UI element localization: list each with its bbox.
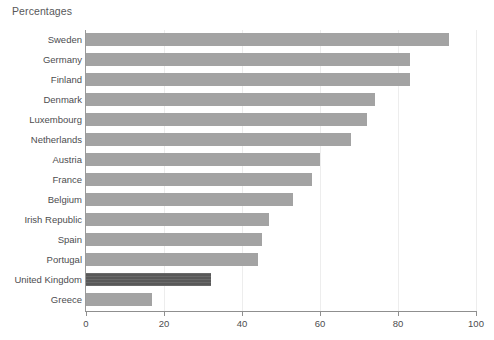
bar-germany <box>86 53 410 66</box>
category-label-germany: Germany <box>0 50 82 70</box>
x-tick-label-0: 0 <box>83 318 88 329</box>
bar-row <box>86 170 476 190</box>
bar-row <box>86 130 476 150</box>
category-label-austria: Austria <box>0 150 82 170</box>
category-label-irish-republic: Irish Republic <box>0 210 82 230</box>
x-tick-label-40: 40 <box>237 318 248 329</box>
bar-row <box>86 30 476 50</box>
gridline-100 <box>476 30 477 311</box>
bar-united-kingdom <box>86 273 211 286</box>
category-label-belgium: Belgium <box>0 190 82 210</box>
bar-row <box>86 110 476 130</box>
bar-portugal <box>86 253 258 266</box>
category-label-greece: Greece <box>0 290 82 310</box>
category-label-sweden: Sweden <box>0 30 82 50</box>
category-label-finland: Finland <box>0 70 82 90</box>
bar-france <box>86 173 312 186</box>
category-label-united-kingdom: United Kingdom <box>0 270 82 290</box>
category-label-denmark: Denmark <box>0 90 82 110</box>
category-axis-labels: SwedenGermanyFinlandDenmarkLuxembourgNet… <box>0 30 82 311</box>
x-tick-mark-60 <box>320 311 321 316</box>
bar-spain <box>86 233 262 246</box>
x-tick-label-100: 100 <box>468 318 484 329</box>
bar-row <box>86 270 476 290</box>
x-tick-mark-0 <box>86 311 87 316</box>
bar-chart: Percentages SwedenGermanyFinlandDenmarkL… <box>0 0 494 340</box>
bar-irish-republic <box>86 213 269 226</box>
bar-row <box>86 70 476 90</box>
bar-greece <box>86 293 152 306</box>
bar-series <box>86 30 476 311</box>
bar-row <box>86 190 476 210</box>
category-label-portugal: Portugal <box>0 250 82 270</box>
bar-row <box>86 250 476 270</box>
category-label-luxembourg: Luxembourg <box>0 110 82 130</box>
x-tick-label-20: 20 <box>159 318 170 329</box>
x-tick-label-60: 60 <box>315 318 326 329</box>
x-tick-mark-20 <box>164 311 165 316</box>
bar-sweden <box>86 33 449 46</box>
y-axis-line <box>85 30 86 311</box>
chart-title: Percentages <box>12 5 72 17</box>
plot-area <box>86 30 476 311</box>
category-label-netherlands: Netherlands <box>0 130 82 150</box>
x-tick-mark-40 <box>242 311 243 316</box>
bar-austria <box>86 153 320 166</box>
category-label-france: France <box>0 170 82 190</box>
bar-denmark <box>86 93 375 106</box>
bar-row <box>86 150 476 170</box>
bar-row <box>86 290 476 310</box>
x-tick-label-80: 80 <box>393 318 404 329</box>
bar-row <box>86 210 476 230</box>
bar-finland <box>86 73 410 86</box>
x-tick-mark-80 <box>398 311 399 316</box>
category-label-spain: Spain <box>0 230 82 250</box>
x-axis-line <box>85 311 477 312</box>
x-tick-mark-100 <box>476 311 477 316</box>
bar-row <box>86 90 476 110</box>
bar-row <box>86 230 476 250</box>
bar-luxembourg <box>86 113 367 126</box>
bar-row <box>86 50 476 70</box>
bar-belgium <box>86 193 293 206</box>
bar-netherlands <box>86 133 351 146</box>
